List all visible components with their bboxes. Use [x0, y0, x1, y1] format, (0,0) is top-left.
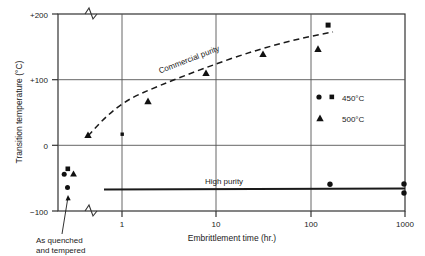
xtick-label-100: 100	[304, 220, 318, 229]
ytick-label-minus100: −100	[30, 208, 49, 217]
as-quenched-leader-line	[62, 197, 68, 234]
legend-entry-450[interactable]: 450°C	[316, 94, 364, 103]
annotation-as-quenched-line1: As quenched	[36, 236, 83, 245]
chart-figure: +200 +100 0 −100 1 10 100 1000 Embrittle…	[0, 0, 425, 256]
data-point-square	[121, 133, 124, 136]
data-point-triangle	[314, 45, 321, 52]
chart-svg: +200 +100 0 −100 1 10 100 1000 Embrittle…	[0, 0, 425, 256]
annotation-as-quenched-line2: and tempered	[36, 246, 85, 255]
y-axis-title: Transition temperature (°C)	[14, 60, 24, 163]
chart-legend: 450°C 500°C	[316, 94, 364, 124]
ytick-label-0: 0	[44, 142, 49, 151]
legend-triangle-icon	[316, 115, 323, 122]
data-point-triangle	[259, 50, 266, 57]
data-point-triangle	[70, 171, 77, 177]
legend-label-450: 450°C	[342, 94, 365, 103]
data-point-circle	[401, 181, 406, 186]
data-point-triangle	[202, 70, 209, 77]
data-point-square	[66, 167, 71, 172]
data-point-square	[326, 23, 331, 28]
legend-circle-icon	[316, 94, 321, 99]
ytick-label-200: +200	[30, 11, 49, 20]
data-point-circle	[62, 172, 67, 177]
data-point-circle	[401, 190, 406, 195]
xtick-label-1: 1	[120, 220, 125, 229]
ytick-label-100: +100	[30, 76, 49, 85]
annotation-high-purity: High purity	[205, 177, 243, 186]
x-axis-title: Embrittlement time (hr.)	[188, 233, 276, 243]
high-purity-trend-line	[104, 189, 405, 190]
legend-entry-500[interactable]: 500°C	[316, 115, 364, 124]
legend-label-500: 500°C	[342, 115, 365, 124]
xtick-label-10: 10	[212, 220, 221, 229]
as-quenched-arrowhead-icon	[66, 195, 71, 201]
xtick-label-1000: 1000	[396, 220, 414, 229]
data-point-circle	[65, 185, 70, 190]
annotation-commercial-purity: Commercial purity	[157, 44, 220, 76]
data-point-circle	[327, 182, 332, 187]
data-point-triangle	[144, 98, 151, 105]
legend-square-icon	[330, 95, 335, 100]
